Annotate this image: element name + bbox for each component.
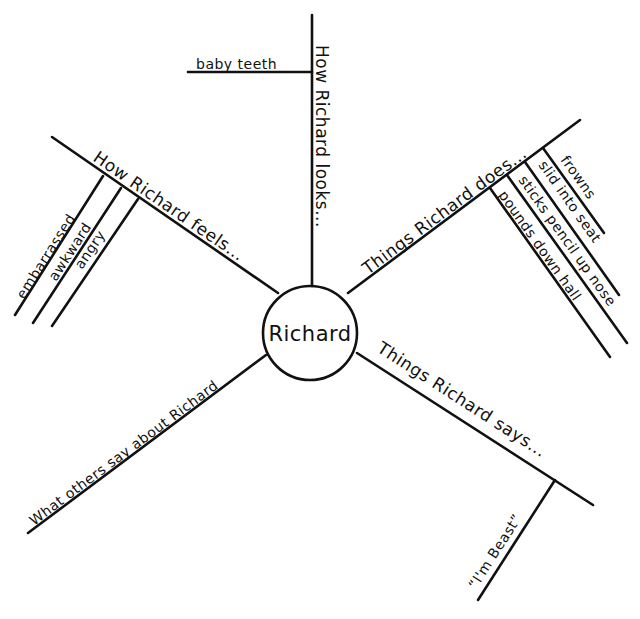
branch-says-label: Things Richard says... (373, 337, 550, 461)
branch-looks-label: How Richard looks... (312, 45, 332, 228)
branch-does-label: Things Richard does... (358, 143, 531, 279)
branch-feels-label: How Richard feels... (90, 147, 249, 265)
branch-feels: How Richard feels... embarrassed awkward… (13, 137, 278, 326)
detail-says-0: “I'm Beast” (465, 511, 525, 592)
detail-looks-0: baby teeth (196, 56, 277, 72)
branch-others: What others say about Richard (26, 355, 266, 533)
branch-others-label: What others say about Richard (26, 377, 221, 528)
branch-does: Things Richard does... frowns slid into … (348, 120, 627, 357)
detail-says-line-0 (478, 480, 555, 600)
character-web-diagram: Richard How Richard looks... baby teeth … (0, 0, 640, 619)
branch-says: Things Richard says... “I'm Beast” (357, 337, 593, 600)
center-node: Richard (263, 286, 357, 380)
center-label: Richard (268, 322, 351, 346)
branch-says-line (357, 353, 593, 505)
